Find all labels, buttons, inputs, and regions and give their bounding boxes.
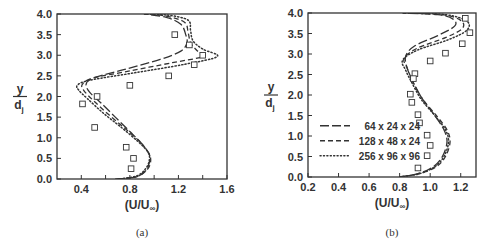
data-marker-square — [409, 100, 415, 106]
panel-caption: (a) — [136, 226, 149, 239]
y-tick-label: 1.0 — [288, 130, 303, 142]
y-axis-label-denominator: dj — [265, 96, 275, 112]
data-marker-square — [415, 112, 421, 118]
y-tick-label: 3.5 — [37, 29, 52, 41]
x-tick-label: 0.2 — [300, 181, 315, 193]
y-tick-label: 0.5 — [288, 151, 303, 163]
data-marker-square — [80, 101, 86, 107]
legend-label: 128 x 48 x 24 — [359, 136, 421, 147]
panel-caption: (b) — [386, 226, 399, 239]
y-tick-label: 1.5 — [37, 111, 52, 123]
data-marker-square — [187, 42, 193, 48]
data-marker-square — [408, 91, 414, 97]
y-tick-label: 0.5 — [37, 152, 52, 164]
legend-label: 64 x 24 x 24 — [364, 121, 420, 132]
data-marker-square — [127, 83, 133, 89]
y-tick-label: 4.0 — [37, 8, 52, 20]
data-marker-square — [191, 62, 197, 68]
chart-panel-a: 0.00.51.01.52.02.53.03.54.00.40.81.21.6(… — [13, 8, 235, 239]
x-tick-label: 1.0 — [423, 181, 438, 193]
y-tick-label: 3.0 — [37, 49, 52, 61]
x-tick-label: 0.4 — [331, 181, 347, 193]
data-marker-square — [424, 153, 430, 159]
y-axis-label-numerator: y — [268, 80, 275, 94]
data-marker-square — [415, 165, 421, 171]
y-tick-label: 2.0 — [288, 89, 303, 101]
y-tick-label: 3.5 — [288, 28, 303, 40]
y-axis-label-denominator: dj — [14, 98, 24, 114]
data-marker-square — [92, 125, 98, 131]
figure: 0.00.51.01.52.02.53.03.54.00.40.81.21.6(… — [0, 0, 486, 243]
y-tick-label: 1.5 — [288, 110, 303, 122]
legend-label: 256 x 96 x 96 — [359, 151, 421, 162]
x-tick-label: 1.6 — [219, 183, 234, 195]
plot-frame — [57, 14, 227, 179]
y-tick-label: 0.0 — [37, 173, 52, 185]
y-tick-label: 2.0 — [37, 91, 52, 103]
data-marker-square — [463, 16, 469, 22]
data-marker-square — [459, 41, 465, 47]
data-marker-square — [123, 144, 129, 150]
data-marker-square — [427, 143, 433, 149]
y-tick-label: 1.0 — [37, 132, 52, 144]
series-line — [86, 14, 187, 179]
chart-panel-b: 0.00.51.01.52.02.53.03.54.00.20.40.60.81… — [264, 7, 476, 239]
y-tick-label: 4.0 — [288, 7, 303, 19]
x-tick-label: 1.2 — [171, 183, 186, 195]
x-tick-label: 0.4 — [74, 183, 90, 195]
data-marker-square — [128, 166, 134, 172]
data-marker-square — [427, 58, 433, 64]
x-axis-label: (U/U∞) — [125, 198, 159, 213]
y-tick-label: 2.5 — [37, 70, 52, 82]
y-axis-label-numerator: y — [17, 82, 24, 96]
y-tick-label: 3.0 — [288, 48, 303, 60]
data-marker-square — [443, 50, 449, 56]
data-marker-square — [172, 32, 178, 38]
y-tick-label: 2.5 — [288, 69, 303, 81]
x-tick-label: 0.8 — [122, 183, 137, 195]
x-axis-label: (U/U∞) — [375, 196, 409, 211]
x-tick-label: 0.8 — [392, 181, 407, 193]
data-marker-square — [467, 30, 473, 36]
data-marker-square — [200, 52, 206, 58]
data-marker-square — [424, 132, 430, 138]
x-tick-label: 1.2 — [453, 181, 468, 193]
x-tick-label: 0.6 — [361, 181, 376, 193]
data-marker-square — [166, 73, 172, 79]
data-marker-square — [131, 156, 137, 162]
data-marker-square — [411, 76, 417, 82]
data-marker-square — [94, 94, 100, 100]
